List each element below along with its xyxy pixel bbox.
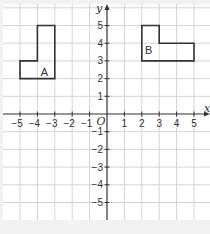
y-tick-label: −5 xyxy=(92,197,104,208)
y-tick-label: −4 xyxy=(92,179,104,190)
shape-label-b: B xyxy=(145,44,152,56)
x-tick-label: 4 xyxy=(174,118,180,129)
coordinate-grid-figure: −5−4−3−2−11234554321−1−2−3−4−5xyOAB xyxy=(0,0,210,234)
y-tick-label: 3 xyxy=(97,55,103,66)
x-tick-label: 5 xyxy=(191,118,197,129)
y-axis-name: y xyxy=(95,2,103,15)
x-tick-label: 2 xyxy=(139,118,145,129)
x-tick-label: 3 xyxy=(156,118,162,129)
coordinate-plane: −5−4−3−2−11234554321−1−2−3−4−5xyOAB xyxy=(0,0,210,234)
x-tick-label: 1 xyxy=(122,118,128,129)
shape-label-a: A xyxy=(41,66,49,78)
y-tick-label: 5 xyxy=(97,20,103,31)
x-tick-label: −4 xyxy=(29,118,41,129)
origin-label: O xyxy=(96,115,105,128)
y-tick-label: 2 xyxy=(97,73,103,84)
y-tick-label: 1 xyxy=(97,91,103,102)
x-axis-name: x xyxy=(204,102,210,115)
x-tick-label: −3 xyxy=(46,118,58,129)
axes xyxy=(3,4,210,220)
y-tick-label: −3 xyxy=(92,162,104,173)
y-tick-label: −2 xyxy=(92,144,104,155)
y-tick-label: 4 xyxy=(97,38,103,49)
y-axis-arrow-icon xyxy=(105,4,110,10)
x-tick-label: −2 xyxy=(63,118,75,129)
labels: −5−4−3−2−11234554321−1−2−3−4−5xyOAB xyxy=(11,2,210,208)
x-tick-label: −5 xyxy=(11,118,23,129)
